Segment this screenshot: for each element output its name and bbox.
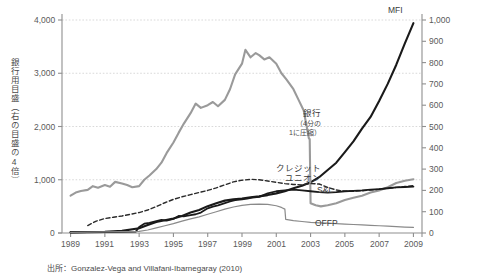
y-axis-left-tick: 3,000 bbox=[34, 68, 55, 78]
y-axis-left-tick: 2,000 bbox=[34, 122, 55, 132]
y-axis-right-tick: 300 bbox=[429, 164, 443, 174]
y-axis-left-tick: 0 bbox=[50, 228, 55, 238]
series-line-MFI bbox=[71, 23, 414, 232]
series-label-text: クレジット bbox=[276, 163, 321, 173]
y-axis-left-title: 銀行用目盛（右の目盛の4倍） bbox=[2, 58, 18, 185]
x-axis-tick: 1999 bbox=[233, 239, 252, 249]
source-note: 出所：Gonzalez-Vega and Villafani-Ibarnegar… bbox=[47, 262, 242, 273]
y-axis-right-tick: 500 bbox=[429, 122, 443, 132]
chart-plot-area bbox=[0, 0, 480, 280]
series-label-text: MFI bbox=[388, 5, 403, 15]
y-axis-left-tick: 1,000 bbox=[34, 175, 55, 185]
y-axis-right-tick: 400 bbox=[429, 143, 443, 153]
series-label-text: S&L bbox=[317, 185, 333, 195]
y-axis-right-tick: 200 bbox=[429, 185, 443, 195]
x-axis-tick: 1997 bbox=[198, 239, 217, 249]
chart-figure: 銀行用目盛（右の目盛の4倍） 出所：Gonzalez-Vega and Vill… bbox=[0, 0, 480, 280]
x-axis-tick: 2001 bbox=[267, 239, 286, 249]
series-line-OFFP bbox=[71, 204, 414, 232]
x-axis-tick: 2009 bbox=[404, 239, 423, 249]
series-label-銀行: 銀行（4分の1に圧縮） bbox=[289, 109, 321, 138]
series-label-sub-line1: （4分の bbox=[289, 119, 321, 129]
series-label-OFFP: OFFP bbox=[315, 219, 338, 229]
series-line-S&L bbox=[71, 187, 414, 233]
y-axis-right-tick: 700 bbox=[429, 79, 443, 89]
series-label-text: 銀行 bbox=[303, 108, 321, 118]
series-label-MFI: MFI bbox=[388, 6, 403, 16]
x-axis-tick: 1995 bbox=[164, 239, 183, 249]
series-label-クレジットユニオン: クレジットユニオン bbox=[276, 164, 321, 183]
series-label-text: OFFP bbox=[315, 218, 338, 228]
series-label-S&L: S&L bbox=[317, 186, 333, 196]
y-axis-right-tick: 100 bbox=[429, 207, 443, 217]
x-axis-tick: 1993 bbox=[130, 239, 149, 249]
x-axis-tick: 2007 bbox=[370, 239, 389, 249]
y-axis-right-tick: 0 bbox=[429, 228, 434, 238]
x-axis-tick: 1991 bbox=[95, 239, 114, 249]
y-axis-right-tick: 900 bbox=[429, 36, 443, 46]
x-axis-tick: 2005 bbox=[335, 239, 354, 249]
y-axis-right-tick: 600 bbox=[429, 100, 443, 110]
y-axis-left-tick: 4,000 bbox=[34, 15, 55, 25]
x-axis-tick: 1989 bbox=[61, 239, 80, 249]
x-axis-tick: 2003 bbox=[301, 239, 320, 249]
y-axis-right-tick: 800 bbox=[429, 58, 443, 68]
y-axis-right-tick: 1,000 bbox=[429, 15, 450, 25]
series-label-sub-line2: 1に圧縮） bbox=[289, 128, 321, 138]
series-label-text-line2: ユニオン bbox=[276, 174, 321, 184]
